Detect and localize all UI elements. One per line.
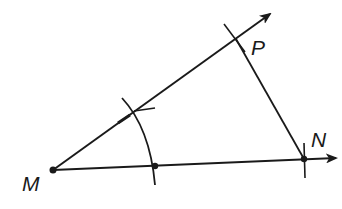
point-m	[50, 167, 57, 174]
ray-mp	[53, 14, 270, 170]
point-arc-intersection	[152, 163, 158, 169]
ray-mark	[118, 115, 130, 123]
label-n: N	[311, 128, 327, 151]
ray-mn	[53, 158, 336, 170]
arc-tick-p	[224, 24, 245, 52]
point-n	[301, 156, 307, 162]
label-p: P	[251, 36, 265, 59]
angle-construction-diagram: M P N	[0, 0, 342, 209]
segment-pn	[236, 39, 304, 159]
label-m: M	[22, 172, 40, 195]
